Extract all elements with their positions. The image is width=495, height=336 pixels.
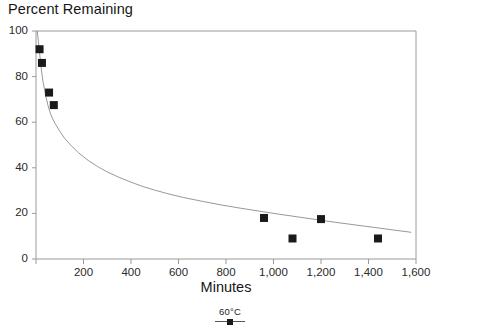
data-point-marker (289, 234, 297, 242)
y-tick-label: 100 (0, 24, 28, 36)
y-tick-label: 60 (0, 115, 28, 127)
chart-legend: 60°C (0, 306, 460, 326)
fit-curve (37, 31, 411, 232)
data-point-marker (317, 215, 325, 223)
y-tick-label: 20 (0, 206, 28, 218)
data-point-marker (38, 59, 46, 67)
y-tick-label: 0 (0, 252, 28, 264)
x-axis-title: Minutes (0, 279, 452, 295)
legend-item-label: 60°C (0, 306, 460, 317)
data-point-marker (50, 101, 58, 109)
x-tick-label: 1,600 (386, 266, 446, 278)
y-tick-label: 40 (0, 161, 28, 173)
data-point-marker (45, 89, 53, 97)
data-point-marker (260, 214, 268, 222)
chart-container: Percent Remaining 020406080100 200400600… (0, 0, 495, 336)
legend-square-marker-icon (227, 319, 233, 325)
legend-item-key (0, 317, 460, 326)
data-point-marker (374, 234, 382, 242)
y-tick-label: 80 (0, 70, 28, 82)
data-point-marker (36, 45, 44, 53)
